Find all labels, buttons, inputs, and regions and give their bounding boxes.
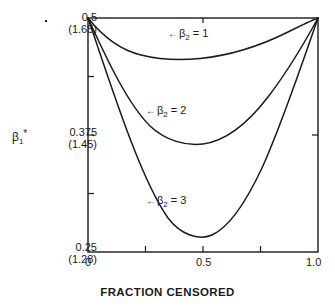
y-tick-bot-alt: (1.28) — [68, 253, 97, 265]
series-annotation-beta2-3-value: = 3 — [168, 194, 187, 206]
series-annotation-beta2-2-value: = 2 — [168, 104, 187, 116]
series-annotation-beta2-2: ←β2 = 2 — [146, 104, 186, 121]
y-tick-top-value: 0.5 — [68, 11, 97, 23]
y-tick-label-top: 0.5 (1.65) — [68, 11, 97, 35]
y-axis-title-base: β — [12, 130, 19, 144]
x-tick-label-0-5: 0.5 — [196, 256, 211, 268]
y-tick-mid-value: 0.375 — [68, 126, 97, 138]
series-annotation-beta2-3: ←β2 = 3 — [146, 194, 186, 211]
series-annotation-beta2-1-value: = 1 — [190, 27, 209, 39]
x-tick-label-0: 0 — [85, 256, 91, 268]
arrow-left-icon: ← — [146, 105, 157, 116]
arrow-left-icon: ← — [168, 28, 179, 39]
y-axis-ticks — [88, 77, 318, 194]
y-axis-title-superscript: * — [23, 128, 27, 139]
x-tick-label-1-0: 1.0 — [306, 256, 321, 268]
y-axis-title: β1* — [12, 128, 27, 148]
y-tick-label-bottom: 0.25 (1.28) — [68, 241, 97, 265]
y-tick-top-alt: (1.65) — [68, 23, 97, 35]
series-annotation-beta2-1: ←β2 = 1 — [168, 27, 208, 44]
arrow-left-icon: ← — [146, 195, 157, 206]
y-tick-mid-alt: (1.45) — [68, 138, 97, 150]
y-tick-bot-value: 0.25 — [68, 241, 97, 253]
curve-beta2-3 — [88, 18, 318, 237]
x-axis-title: FRACTION CENSORED — [0, 286, 335, 298]
chart-figure: 0.5 (1.65) 0.375 (1.45) 0.25 (1.28) β1* … — [0, 0, 335, 308]
top-label-dot — [45, 20, 47, 22]
y-tick-label-mid: 0.375 (1.45) — [68, 126, 97, 150]
plot-frame — [88, 18, 318, 252]
plot-area — [0, 0, 335, 308]
